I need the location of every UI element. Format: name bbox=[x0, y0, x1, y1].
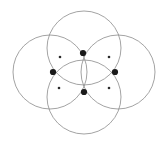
left-node bbox=[50, 69, 56, 75]
minor-points-group bbox=[58, 56, 111, 90]
upper-left-node bbox=[59, 56, 62, 59]
circle-rosette-diagram bbox=[0, 0, 166, 145]
bottom-circle bbox=[47, 60, 121, 134]
lower-right-node bbox=[108, 87, 111, 90]
upper-right-node bbox=[108, 56, 111, 59]
lower-left-node bbox=[58, 87, 61, 90]
diagram-canvas bbox=[0, 0, 166, 145]
circles-group bbox=[13, 11, 155, 134]
right-node bbox=[112, 69, 118, 75]
top-circle bbox=[47, 11, 121, 85]
top-node bbox=[80, 50, 86, 56]
bottom-node bbox=[81, 89, 87, 95]
